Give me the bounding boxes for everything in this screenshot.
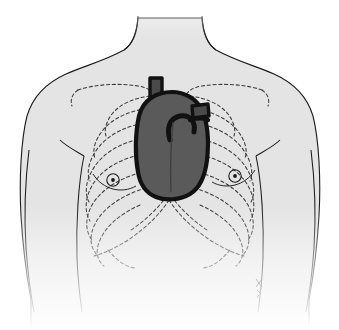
- anatomy-figure: [0, 0, 339, 330]
- bottom-fade-overlay: [0, 0, 339, 330]
- torso-illustration: [0, 0, 339, 330]
- top-fade-overlay: [0, 0, 339, 40]
